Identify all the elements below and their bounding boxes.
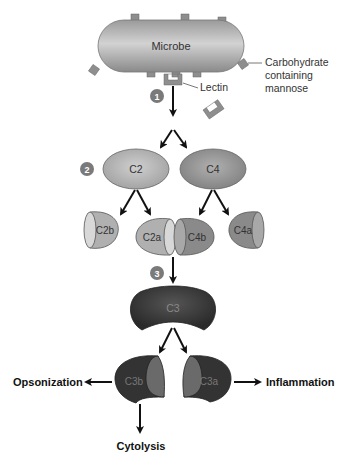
c4b-label: C4b	[188, 232, 207, 243]
c2-label: C2	[129, 163, 143, 175]
c2b-label: C2b	[96, 225, 115, 236]
lectin-label: Lectin	[200, 81, 228, 93]
lectin-leader-line	[183, 83, 198, 88]
inflammation-label: Inflammation	[266, 376, 335, 388]
opsonization-label: Opsonization	[13, 376, 83, 388]
arrow-c2-to-c2a	[137, 190, 150, 214]
c3a-label: C3a	[200, 376, 219, 387]
step-2-number: 2	[84, 165, 89, 175]
step-3-number: 3	[154, 269, 159, 279]
arrow-c3-to-c3a	[174, 328, 186, 352]
step-1-number: 1	[154, 92, 159, 102]
arrow-c2-to-c2b	[121, 190, 135, 214]
c3-label: C3	[166, 302, 180, 314]
lectin-pathway-diagram: Microbe Carbohydrate containing mannose …	[0, 0, 343, 459]
lectin-free	[203, 100, 224, 119]
arrow-c4-to-c4a	[214, 190, 228, 214]
c3b-label: C3b	[125, 376, 144, 387]
cytolysis-label: Cytolysis	[117, 440, 166, 452]
arrow-c4-to-c4b	[200, 190, 212, 214]
c4-label: C4	[206, 163, 220, 175]
arrow-to-c2	[161, 130, 172, 147]
arrow-to-c4	[174, 130, 186, 147]
c4a-label: C4a	[234, 225, 253, 236]
arrow-c3-to-c3b	[160, 328, 172, 352]
c2a-label: C2a	[143, 232, 162, 243]
microbe-label: Microbe	[151, 40, 190, 52]
carbohydrate-label: Carbohydrate containing mannose	[265, 56, 332, 94]
